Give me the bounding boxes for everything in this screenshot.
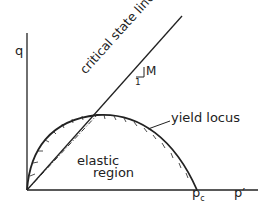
slope-triangle xyxy=(136,67,144,77)
pc-label: pc xyxy=(192,186,205,203)
slope-run-label: 1 xyxy=(135,78,141,87)
diagram-canvas xyxy=(0,0,273,217)
yield-locus-label: yield locus xyxy=(171,111,240,124)
x-axis-label: p′ xyxy=(234,186,245,199)
slope-m-label: M xyxy=(146,65,156,77)
elastic-region-label-line2: region xyxy=(93,166,134,179)
y-axis-label: q xyxy=(15,44,23,57)
pc-subscript: c xyxy=(200,194,204,203)
yield-locus-leader xyxy=(148,121,170,129)
